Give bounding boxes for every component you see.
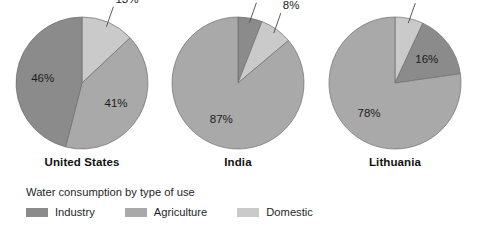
- legend-item-domestic: Domestic: [237, 206, 313, 218]
- slice-label-lithuania-industry: 16%: [415, 53, 438, 65]
- pie-chart-india: 6%8%87% India: [158, 0, 318, 178]
- slice-label-united-states-agriculture: 41%: [105, 97, 128, 109]
- pie-title-lithuania: Lithuania: [315, 156, 475, 168]
- pie-chart-lithuania: 7%16%78% Lithuania: [315, 0, 475, 178]
- pie-svg-lithuania: 7%16%78%: [315, 0, 475, 178]
- pie-svg-india: 6%8%87%: [158, 0, 318, 178]
- slice-label-united-states-domestic: 13%: [115, 0, 138, 5]
- pie-chart-united-states: 13%41%46% United States: [2, 0, 162, 178]
- legend-item-agriculture: Agriculture: [125, 206, 207, 218]
- legend-label-industry: Industry: [55, 206, 95, 218]
- legend: Water consumption by type of use Industr…: [26, 186, 466, 218]
- pie-title-united-states: United States: [2, 156, 162, 168]
- slice-label-india-domestic: 8%: [283, 0, 300, 11]
- legend-swatch-agriculture: [125, 208, 147, 217]
- slice-label-united-states-industry: 46%: [31, 72, 54, 84]
- water-consumption-figure: 13%41%46% United States 6%8%87% India 7%…: [0, 0, 479, 233]
- legend-swatch-domestic: [237, 208, 259, 217]
- legend-item-industry: Industry: [26, 206, 95, 218]
- slice-label-lithuania-domestic: 7%: [417, 0, 434, 1]
- slice-label-lithuania-agriculture: 78%: [357, 107, 380, 119]
- pie-chart-row: 13%41%46% United States 6%8%87% India 7%…: [0, 0, 479, 178]
- slice-label-india-industry: 6%: [258, 0, 275, 1]
- slice-label-india-agriculture: 87%: [210, 113, 233, 125]
- legend-label-agriculture: Agriculture: [154, 206, 207, 218]
- pie-svg-united-states: 13%41%46%: [2, 0, 162, 178]
- legend-title: Water consumption by type of use: [26, 186, 466, 198]
- legend-items: IndustryAgricultureDomestic: [26, 206, 466, 218]
- legend-swatch-industry: [26, 208, 48, 217]
- pie-title-india: India: [158, 156, 318, 168]
- legend-label-domestic: Domestic: [266, 206, 313, 218]
